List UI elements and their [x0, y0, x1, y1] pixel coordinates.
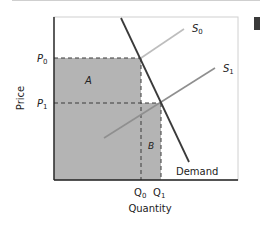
region-a-label: A [84, 75, 92, 86]
q1-label: Q1 [153, 187, 165, 200]
p1-label: P1 [37, 98, 48, 111]
p0-label: P0 [37, 53, 48, 66]
x-axis-label: Quantity [128, 203, 171, 214]
demand-label: Demand [176, 166, 218, 177]
y-axis-label: Price [15, 86, 26, 110]
region-b-label: B [148, 141, 154, 151]
supply-demand-diagram: Price P0 P1 A B S0 S1 Demand Q0 Q1 Quant… [0, 0, 260, 225]
region-a-fill [54, 58, 141, 180]
q0-label: Q0 [134, 187, 146, 200]
